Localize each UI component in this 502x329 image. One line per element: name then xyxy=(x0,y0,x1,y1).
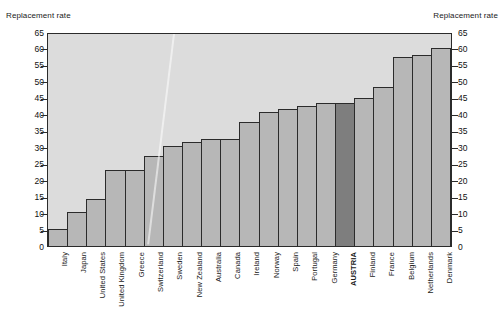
bar-series xyxy=(48,34,451,246)
x-axis-cell: Denmark xyxy=(433,250,452,328)
bar-australia[interactable] xyxy=(201,139,221,246)
y-tick-mark-right-40 xyxy=(452,115,458,116)
bar-ireland[interactable] xyxy=(239,122,259,246)
x-axis-cell: Norway xyxy=(259,250,278,328)
y-tick-mark-left-30 xyxy=(41,148,47,149)
y-tick-label-right-20: 20 xyxy=(458,177,467,186)
y-tick-label-right-25: 25 xyxy=(458,160,467,169)
x-axis-cell: Japan xyxy=(66,250,85,328)
x-tick-label-denmark: Denmark xyxy=(445,252,454,283)
x-axis-cell: Canada xyxy=(221,250,240,328)
x-axis-cell: Sweden xyxy=(163,250,182,328)
y-tick-mark-left-15 xyxy=(41,198,47,199)
x-axis-cell: New Zealand xyxy=(182,250,201,328)
x-axis-cell: France xyxy=(375,250,394,328)
x-axis-cell: Netherlands xyxy=(413,250,432,328)
bar-denmark[interactable] xyxy=(431,48,451,246)
bar-switzerland[interactable] xyxy=(144,156,164,246)
bar-sweden[interactable] xyxy=(163,146,183,246)
x-axis-cell: Ireland xyxy=(240,250,259,328)
y-tick-mark-left-50 xyxy=(41,82,47,83)
bar-germany[interactable] xyxy=(316,103,336,246)
y-tick-label-right-50: 50 xyxy=(458,78,467,87)
y-tick-label-right-55: 55 xyxy=(458,61,467,70)
bar-united-states[interactable] xyxy=(86,199,106,246)
bar-italy[interactable] xyxy=(48,229,68,246)
x-axis-cell: Portugal xyxy=(298,250,317,328)
x-axis-category-labels: ItalyJapanUnited StatesUnited KingdomGre… xyxy=(47,250,452,328)
bar-belgium[interactable] xyxy=(393,57,413,246)
y-tick-mark-left-55 xyxy=(41,66,47,67)
bar-portugal[interactable] xyxy=(297,106,317,246)
x-axis-cell: United States xyxy=(86,250,105,328)
y-tick-mark-left-25 xyxy=(41,165,47,166)
y-tick-mark-right-10 xyxy=(452,214,458,215)
y-tick-label-right-40: 40 xyxy=(458,111,467,120)
bar-finland[interactable] xyxy=(354,98,374,246)
y-tick-mark-left-45 xyxy=(41,99,47,100)
y-tick-label-left-65: 65 xyxy=(35,29,44,38)
y-tick-mark-right-60 xyxy=(452,49,458,50)
y-tick-label-right-45: 45 xyxy=(458,94,467,103)
y-tick-label-right-65: 65 xyxy=(458,29,467,38)
y-tick-label-right-0: 0 xyxy=(458,243,463,252)
y-tick-mark-left-20 xyxy=(41,181,47,182)
bar-austria[interactable] xyxy=(335,103,355,246)
plot-area xyxy=(47,33,452,247)
x-axis-cell: Italy xyxy=(47,250,66,328)
y-tick-label-left-0: 0 xyxy=(39,243,44,252)
y-tick-mark-left-40 xyxy=(41,115,47,116)
bar-united-kingdom[interactable] xyxy=(105,170,125,246)
y-tick-label-right-5: 5 xyxy=(458,226,463,235)
bar-japan[interactable] xyxy=(67,212,87,246)
x-axis-cell: Spain xyxy=(278,250,297,328)
bar-netherlands[interactable] xyxy=(412,55,432,246)
y-tick-mark-left-10 xyxy=(41,214,47,215)
bar-new-zealand[interactable] xyxy=(182,142,202,246)
y-tick-mark-right-45 xyxy=(452,99,458,100)
bar-spain[interactable] xyxy=(278,109,298,246)
bar-canada[interactable] xyxy=(220,139,240,246)
y-tick-label-right-60: 60 xyxy=(458,45,467,54)
y-tick-mark-right-25 xyxy=(452,165,458,166)
x-axis-cell: Greece xyxy=(124,250,143,328)
y-tick-mark-right-20 xyxy=(452,181,458,182)
y-tick-mark-right-5 xyxy=(452,231,458,232)
bar-norway[interactable] xyxy=(259,112,279,246)
bar-france[interactable] xyxy=(373,87,393,246)
y-tick-label-right-15: 15 xyxy=(458,193,467,202)
x-axis-cell: Finland xyxy=(356,250,375,328)
x-axis-cell: Belgium xyxy=(394,250,413,328)
y-tick-label-right-10: 10 xyxy=(458,210,467,219)
x-axis-cell: United Kingdom xyxy=(105,250,124,328)
y-tick-mark-left-35 xyxy=(41,132,47,133)
y-tick-mark-right-50 xyxy=(452,82,458,83)
y-tick-mark-left-5 xyxy=(41,231,47,232)
y-tick-mark-right-35 xyxy=(452,132,458,133)
x-axis-cell: AUSTRIA xyxy=(336,250,355,328)
x-axis-cell: Germany xyxy=(317,250,336,328)
y-tick-mark-right-15 xyxy=(452,198,458,199)
x-axis-cell: Switzerland xyxy=(143,250,162,328)
y-tick-mark-left-60 xyxy=(41,49,47,50)
right-axis-title: Replacement rate xyxy=(433,11,498,20)
bar-greece[interactable] xyxy=(125,170,145,246)
x-axis-cell: Australia xyxy=(201,250,220,328)
y-tick-label-right-30: 30 xyxy=(458,144,467,153)
y-tick-label-right-35: 35 xyxy=(458,127,467,136)
y-tick-mark-right-55 xyxy=(452,66,458,67)
left-axis-title: Replacement rate xyxy=(6,11,71,20)
y-tick-mark-right-30 xyxy=(452,148,458,149)
